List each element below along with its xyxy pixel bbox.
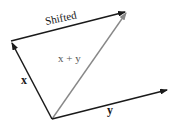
- label-sum: x + y: [58, 52, 81, 64]
- label-shifted: Shifted: [44, 9, 78, 27]
- vector-x-arrow: [12, 43, 52, 119]
- label-y: y: [107, 103, 113, 117]
- label-x: x: [21, 73, 27, 87]
- vector-diagram: Shifted x + y x y: [0, 0, 175, 127]
